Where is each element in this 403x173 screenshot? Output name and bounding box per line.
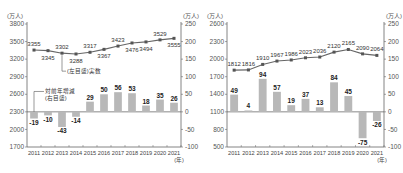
left-tick-label: 800	[213, 126, 224, 133]
right-tick-label: -100	[388, 143, 401, 150]
bar-value-label: 56	[114, 84, 122, 91]
bar-value-label: 13	[316, 99, 324, 106]
line-value-label: 2090	[356, 45, 370, 51]
line-marker	[247, 68, 250, 71]
x-tick-label: 2020	[356, 150, 368, 156]
legend-yoy-sublabel: (右目盛)	[45, 94, 67, 102]
line-value-label: 3355	[27, 41, 41, 47]
line-marker	[361, 52, 364, 55]
bar-value-label: 4	[247, 102, 251, 109]
right-tick-label: 0	[388, 108, 392, 115]
right-tick-label: 200	[388, 38, 399, 45]
bar-yoy-change	[128, 93, 136, 112]
right-tick-label: 150	[388, 55, 399, 62]
line-marker	[33, 49, 36, 52]
x-tick-label: 2017	[314, 150, 326, 156]
bar-yoy-change	[259, 79, 267, 112]
legend-actual-label: (左目盛)実数	[67, 67, 101, 75]
right-tick-label: -50	[185, 126, 195, 133]
line-value-label: 3367	[97, 53, 111, 59]
legend-leader-line	[62, 55, 66, 71]
bar-yoy-change	[273, 92, 281, 112]
line-marker	[145, 40, 148, 43]
x-tick-label: 2014	[271, 150, 283, 156]
bar-yoy-change	[316, 107, 324, 112]
bar-value-label: 18	[142, 98, 150, 105]
bar-yoy-change	[142, 106, 150, 112]
left-chart-employment-total: (万人)(万人)38003500320029002600230020001700…	[0, 0, 201, 173]
right-axis-unit: (万人)	[183, 13, 199, 20]
bar-value-label: 49	[231, 87, 239, 94]
x-tick-label: 2013	[56, 150, 68, 156]
left-tick-label: 2300	[210, 38, 225, 45]
left-tick-label: 1100	[210, 108, 224, 115]
line-marker	[75, 52, 78, 55]
x-axis-unit: (年)	[377, 156, 387, 164]
line-marker	[173, 37, 176, 40]
bar-yoy-change	[244, 110, 252, 111]
charts-figure: (万人)(万人)38003500320029002600230020001700…	[0, 0, 403, 173]
line-value-label: 1986	[285, 51, 299, 57]
bar-value-label: -14	[71, 117, 81, 124]
legend-yoy-label: 対前年増減	[45, 87, 75, 95]
right-tick-label: 150	[185, 55, 196, 62]
bar-yoy-change	[373, 112, 381, 121]
right-chart-employment-subset: (万人)(万人)26002300200017001400110080050025…	[201, 0, 403, 173]
x-tick-label: 2011	[228, 150, 240, 156]
bar-value-label: 45	[345, 88, 353, 95]
line-value-label: 2064	[370, 46, 384, 52]
right-tick-label: 50	[185, 90, 193, 97]
right-tick-label: 50	[388, 90, 396, 97]
bar-yoy-change	[86, 102, 94, 112]
right-tick-label: 100	[185, 73, 196, 80]
line-value-label: 3423	[111, 37, 125, 43]
bar-value-label: -19	[29, 119, 39, 126]
x-tick-label: 2017	[112, 150, 124, 156]
left-tick-label: 3800	[10, 20, 25, 27]
line-marker	[89, 51, 92, 54]
line-value-label: 1910	[256, 55, 270, 61]
left-tick-label: 1400	[210, 90, 225, 97]
line-value-label: 3476	[125, 47, 139, 53]
x-axis-unit: (年)	[174, 156, 184, 164]
left-tick-label: 1700	[10, 143, 25, 150]
line-marker	[290, 58, 293, 61]
bar-yoy-change	[30, 112, 38, 119]
x-tick-label: 2018	[126, 150, 138, 156]
line-marker	[233, 69, 236, 72]
x-tick-label: 2016	[299, 150, 311, 156]
bar-yoy-change	[58, 112, 66, 127]
right-tick-label: 200	[185, 38, 196, 45]
left-tick-label: 2900	[10, 73, 25, 80]
line-marker	[159, 38, 162, 41]
left-tick-label: 2600	[10, 90, 25, 97]
line-marker	[333, 51, 336, 54]
line-value-label: 3317	[83, 43, 97, 49]
line-value-label: 1812	[227, 61, 241, 67]
line-marker	[347, 48, 350, 51]
left-tick-label: 3200	[10, 55, 25, 62]
line-marker	[61, 52, 64, 55]
right-tick-label: 0	[185, 108, 189, 115]
line-value-label: 3529	[153, 31, 167, 37]
right-tick-label: 250	[388, 20, 399, 27]
left-tick-label: 2600	[210, 20, 225, 27]
x-tick-label: 2012	[42, 150, 54, 156]
line-value-label: 3288	[69, 58, 83, 64]
bar-yoy-change	[156, 100, 164, 112]
right-axis-unit: (万人)	[386, 13, 402, 20]
line-marker	[375, 54, 378, 57]
line-value-label: 1816	[242, 61, 256, 67]
left-tick-label: 500	[213, 143, 224, 150]
bar-yoy-change	[287, 105, 295, 112]
bar-yoy-change	[100, 94, 108, 112]
right-tick-label: -50	[388, 126, 398, 133]
line-value-label: 3555	[167, 42, 181, 48]
bar-yoy-change	[170, 103, 178, 112]
x-tick-label: 2021	[371, 150, 383, 156]
bar-yoy-change	[359, 112, 367, 138]
left-tick-label: 2300	[10, 108, 25, 115]
bar-yoy-change	[230, 95, 238, 112]
line-marker	[47, 49, 50, 52]
left-tick-label: 1700	[210, 73, 225, 80]
